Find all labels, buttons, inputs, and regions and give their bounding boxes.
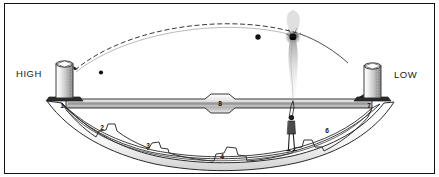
- smoke-plume: [287, 10, 300, 100]
- diagram-artwork: 1 2 3 4 6 7 8: [0, 0, 439, 177]
- figure-canvas: 1 2 3 4 6 7 8 HIGH LOW: [0, 0, 439, 177]
- projectile-ball-left: [99, 70, 103, 74]
- dashed-trajectory-arc: [75, 24, 348, 72]
- zone-number-2: 2: [100, 124, 104, 131]
- projectile-ball-right: [255, 34, 260, 39]
- cylindrical-tower-high: [46, 61, 83, 101]
- cylindrical-tower-low: [354, 63, 391, 101]
- zone-number-4: 4: [220, 153, 224, 160]
- zone-number-8: 8: [218, 100, 222, 107]
- label-high: HIGH: [16, 68, 42, 79]
- label-low: LOW: [394, 69, 417, 80]
- zone-number-6: 6: [325, 127, 329, 134]
- zone-number-3: 3: [146, 142, 150, 149]
- zone-number-7: 7: [367, 102, 371, 109]
- zone-number-1: 1: [60, 102, 64, 109]
